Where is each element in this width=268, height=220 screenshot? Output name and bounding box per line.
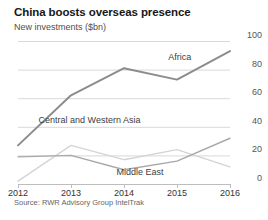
- y-tick-label: 20: [236, 144, 262, 154]
- y-tick-label: 80: [236, 59, 262, 69]
- chart-card: China boosts overseas presence New inves…: [0, 0, 268, 220]
- line-chart-plot: [0, 0, 268, 220]
- series-line: [18, 138, 230, 169]
- x-tick-label: 2015: [157, 188, 197, 198]
- y-tick-label: 0: [236, 173, 262, 183]
- y-tick-label: 100: [236, 30, 262, 40]
- x-tick-label: 2014: [104, 188, 144, 198]
- series-label-central-and-western-asia: Central and Western Asia: [39, 115, 141, 125]
- x-tick-label: 2016: [210, 188, 250, 198]
- x-tick-label: 2013: [51, 188, 91, 198]
- y-tick-label: 60: [236, 87, 262, 97]
- series-label-africa: Africa: [168, 52, 191, 62]
- series-label-middle-east: Middle East: [116, 167, 163, 177]
- y-tick-label: 40: [236, 116, 262, 126]
- source-note: Source: RWR Advisory Group IntelTrak: [14, 198, 144, 207]
- x-tick-label: 2012: [0, 188, 38, 198]
- gridlines: [18, 42, 230, 185]
